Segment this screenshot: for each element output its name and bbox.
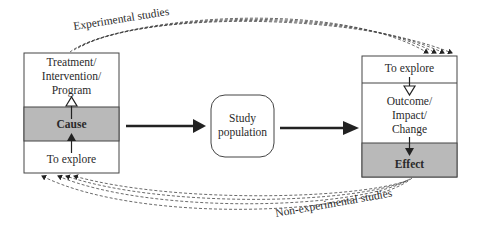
- treatment-label-line3: Program: [52, 84, 92, 97]
- outcome-label-line3: Change: [392, 123, 427, 136]
- cause-label: Cause: [56, 118, 86, 130]
- treatment-label-line1: Treatment/: [46, 56, 97, 68]
- treatment-label-line2: Intervention/: [42, 70, 102, 82]
- effect-label: Effect: [395, 158, 425, 170]
- study-population-box: Study population: [211, 95, 274, 157]
- study-population-line1: Study: [229, 112, 256, 125]
- study-population-line2: population: [218, 126, 267, 139]
- effect-box: To explore Outcome/ Impact/ Change Effec…: [362, 56, 457, 177]
- outcome-label-line2: Impact/: [392, 109, 428, 122]
- research-design-diagram: Experimental studies Non-experimental st…: [0, 0, 477, 236]
- non-experimental-studies-label: Non-experimental studies: [274, 186, 393, 219]
- arrow-to-effect-box: [280, 121, 359, 135]
- arrow-to-study-population: [126, 119, 206, 133]
- effect-to-explore-label: To explore: [385, 62, 434, 75]
- experimental-studies-label: Experimental studies: [72, 5, 170, 33]
- cause-box: Treatment/ Intervention/ Program Cause T…: [24, 53, 119, 173]
- cause-to-explore-label: To explore: [47, 153, 96, 166]
- outcome-label-line1: Outcome/: [387, 95, 433, 107]
